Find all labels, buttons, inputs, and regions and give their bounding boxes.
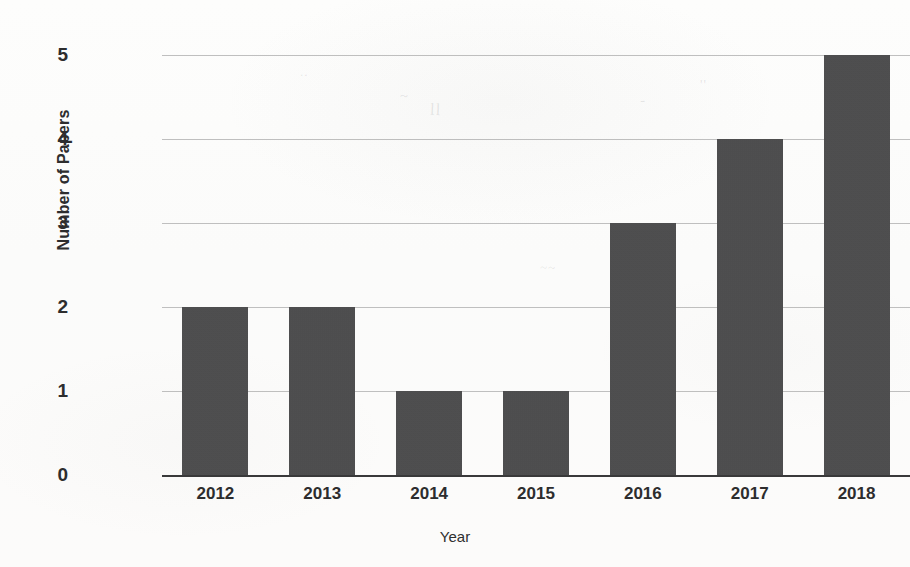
bar-2015[interactable] (503, 391, 569, 475)
y-tick-label: 2 (28, 296, 68, 318)
x-axis-title: Year (40, 528, 870, 545)
plot-area (162, 55, 910, 475)
bars-layer (162, 55, 910, 475)
bar-2017[interactable] (717, 139, 783, 475)
bar-2018[interactable] (824, 55, 890, 475)
y-tick-label: 5 (28, 44, 68, 66)
x-tick-label-2015: 2015 (488, 484, 584, 504)
bar-2014[interactable] (396, 391, 462, 475)
y-tick-label: 3 (28, 212, 68, 234)
axis-baseline (162, 475, 910, 477)
x-tick-label-2012: 2012 (167, 484, 263, 504)
x-tick-label-2013: 2013 (274, 484, 370, 504)
bar-2013[interactable] (289, 307, 355, 475)
y-tick-label: 4 (28, 128, 68, 150)
bar-2016[interactable] (610, 223, 676, 475)
bar-chart: Number of Papers 012345 2012201320142015… (40, 16, 870, 551)
bar-2012[interactable] (182, 307, 248, 475)
y-tick-label: 0 (28, 464, 68, 486)
y-axis-title: Number of Papers (55, 50, 73, 310)
y-tick-label: 1 (28, 380, 68, 402)
x-tick-label-2016: 2016 (595, 484, 691, 504)
x-tick-label-2018: 2018 (809, 484, 905, 504)
x-tick-label-2014: 2014 (381, 484, 477, 504)
x-tick-label-2017: 2017 (702, 484, 798, 504)
